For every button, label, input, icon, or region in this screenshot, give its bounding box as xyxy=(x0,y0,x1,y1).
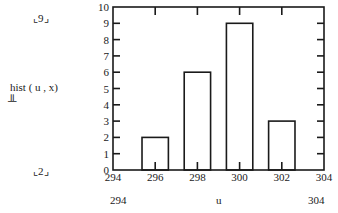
y-tick-label: 1 xyxy=(104,148,110,160)
y-tick-label: 8 xyxy=(104,34,110,46)
x-tick-label: 302 xyxy=(274,171,291,183)
y-tick-label: 5 xyxy=(104,83,110,95)
y-tick-label: 9 xyxy=(104,17,110,29)
x-tick-label: 300 xyxy=(231,171,248,183)
y-tick-label: 2 xyxy=(104,131,110,143)
histogram-bar xyxy=(226,23,252,170)
x-tick-label: 298 xyxy=(189,171,206,183)
y-tick-label: 10 xyxy=(98,1,110,13)
y-tick-label: 6 xyxy=(104,66,110,78)
y-tick-label: 4 xyxy=(104,99,110,111)
x-tick-label: 294 xyxy=(105,171,122,183)
x-tick-label: 304 xyxy=(316,171,333,183)
histogram-bar xyxy=(184,72,210,170)
histogram-chart: 012345678910294296298300302304 xyxy=(0,0,338,213)
y-tick-label: 3 xyxy=(104,115,110,127)
y-tick-label: 7 xyxy=(104,50,110,62)
x-tick-label: 296 xyxy=(147,171,164,183)
